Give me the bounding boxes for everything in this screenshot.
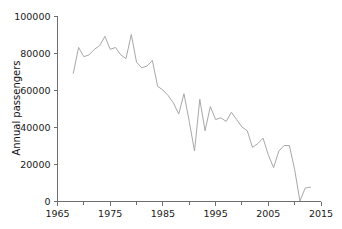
chart-container: 020000400006000080000100000 196519751985… — [0, 0, 342, 229]
x-tick-label: 1985 — [151, 208, 175, 219]
y-tick-label: 60000 — [20, 85, 50, 96]
line-chart: 020000400006000080000100000 196519751985… — [0, 0, 342, 229]
series-line-annual-passengers — [73, 35, 310, 202]
x-tick-group: 196519751985199520052015 — [45, 202, 333, 219]
x-tick-label: 1965 — [45, 208, 69, 219]
y-axis-title: Annual passengers — [11, 60, 22, 155]
y-tick-label: 0 — [44, 196, 50, 207]
x-tick-label: 2015 — [309, 208, 333, 219]
plot-area — [73, 35, 310, 202]
y-tick-label: 80000 — [20, 48, 50, 59]
x-axis: 196519751985199520052015 — [45, 202, 333, 220]
x-tick-label: 2005 — [256, 208, 280, 219]
y-tick-label: 40000 — [20, 122, 50, 133]
y-tick-label: 100000 — [14, 11, 50, 22]
y-tick-label: 20000 — [20, 159, 50, 170]
x-tick-label: 1975 — [98, 208, 122, 219]
x-tick-label: 1995 — [204, 208, 228, 219]
